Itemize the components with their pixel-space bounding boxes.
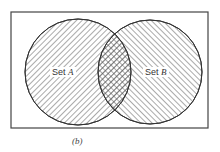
figure-caption: (b) xyxy=(72,136,83,146)
venn-diagram xyxy=(0,0,220,152)
set-b-label: Set B xyxy=(143,67,169,77)
set-a-label: Set A xyxy=(50,67,76,77)
